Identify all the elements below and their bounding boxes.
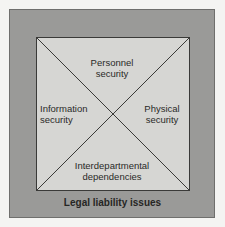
quadrant-top-label: Personnel security: [82, 57, 142, 79]
quadrant-right-label: Physical security: [136, 103, 188, 125]
quadrant-top-line1: Personnel: [82, 57, 142, 68]
quadrant-bottom-label: Interdepartmental dependencies: [62, 160, 162, 182]
footer-caption: Legal liability issues: [0, 197, 225, 208]
quadrant-left-label: Information security: [40, 103, 100, 125]
quadrant-left-line1: Information: [40, 103, 100, 114]
quadrant-right-line1: Physical: [136, 103, 188, 114]
quadrant-right-line2: security: [136, 114, 188, 125]
quadrant-left-line2: security: [40, 114, 100, 125]
quadrant-top-line2: security: [82, 68, 142, 79]
quadrant-bottom-line1: Interdepartmental: [62, 160, 162, 171]
quadrant-bottom-line2: dependencies: [62, 171, 162, 182]
